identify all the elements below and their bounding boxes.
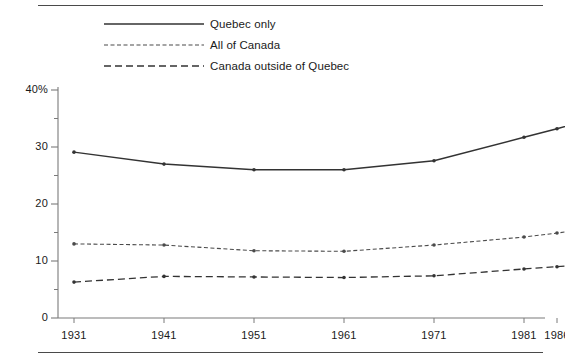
series-line-1 <box>74 209 565 252</box>
series-point-1 <box>342 250 346 254</box>
series-point-0 <box>522 136 526 140</box>
series-point-2 <box>252 275 256 279</box>
y-axis-tick-label: 20 <box>10 197 48 209</box>
y-axis-tick-label: 40% <box>10 83 48 95</box>
series-point-1 <box>72 242 76 246</box>
x-axis-tick-label: 1986 <box>532 329 565 341</box>
series-point-0 <box>252 168 256 172</box>
series-point-1 <box>162 243 166 247</box>
x-axis-tick-label: 1971 <box>409 329 459 341</box>
chart-figure: Quebec only All of Canada Canada outside… <box>0 0 565 363</box>
series-point-2 <box>432 274 436 278</box>
series-point-1 <box>522 235 526 239</box>
series-point-1 <box>252 249 256 253</box>
x-axis-tick-label: 1961 <box>319 329 369 341</box>
x-axis-tick-label: 1931 <box>49 329 99 341</box>
series-point-2 <box>555 265 559 269</box>
x-axis-tick-label: 1951 <box>229 329 279 341</box>
series-point-2 <box>342 276 346 280</box>
series-point-0 <box>72 150 76 154</box>
series-line-0 <box>74 85 565 169</box>
series-point-0 <box>342 168 346 172</box>
series-point-0 <box>162 162 166 166</box>
y-axis-tick-label: 10 <box>10 254 48 266</box>
series-point-2 <box>522 267 526 271</box>
series-point-0 <box>555 127 559 131</box>
x-axis-tick-label: 1941 <box>139 329 189 341</box>
series-point-2 <box>72 280 76 284</box>
series-point-2 <box>162 275 166 279</box>
series-point-1 <box>432 243 436 247</box>
y-axis-tick-label: 0 <box>10 311 48 323</box>
chart-plot-area <box>0 0 565 363</box>
y-axis-tick-label: 30 <box>10 140 48 152</box>
series-point-1 <box>555 231 559 235</box>
series-point-0 <box>432 159 436 163</box>
series-line-2 <box>74 258 565 283</box>
